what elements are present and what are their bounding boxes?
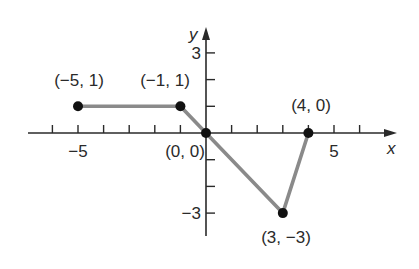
data-point (278, 208, 288, 218)
y-axis-arrow-icon (202, 27, 210, 40)
data-point (303, 128, 313, 138)
data-point (175, 101, 185, 111)
axes (28, 27, 397, 236)
coordinate-plot: −553−3yx(−5, 1)(−1, 1)(0, 0)(3, −3)(4, 0… (0, 0, 419, 269)
data-point (201, 128, 211, 138)
x-axis-arrow-icon (384, 129, 397, 137)
x-axis-label: x (386, 139, 396, 158)
data-point (73, 101, 83, 111)
y-tick-label: −3 (182, 204, 201, 223)
point-label: (−5, 1) (54, 71, 104, 90)
y-tick-label: 3 (192, 44, 201, 63)
y-axis-label: y (188, 25, 199, 44)
x-tick-label: −5 (68, 142, 87, 161)
labels: −553−3yx(−5, 1)(−1, 1)(0, 0)(3, −3)(4, 0… (54, 25, 396, 247)
point-label: (3, −3) (261, 228, 311, 247)
x-tick-label: 5 (329, 142, 338, 161)
point-label: (−1, 1) (140, 71, 190, 90)
point-label: (4, 0) (291, 96, 331, 115)
point-label: (0, 0) (165, 142, 205, 161)
